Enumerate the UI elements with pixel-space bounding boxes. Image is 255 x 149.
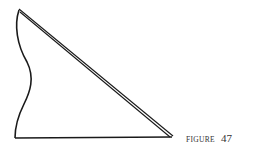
hypotenuse-outer xyxy=(19,9,173,136)
hypotenuse-inner xyxy=(20,12,170,137)
wavy-left-edge xyxy=(15,10,31,138)
bottom-edge xyxy=(15,137,172,138)
figure-label-number: 47 xyxy=(221,132,232,144)
figure-drawing xyxy=(0,0,255,149)
figure-caption: FIGURE 47 xyxy=(186,128,232,146)
figure-label-word: FIGURE xyxy=(186,135,215,144)
